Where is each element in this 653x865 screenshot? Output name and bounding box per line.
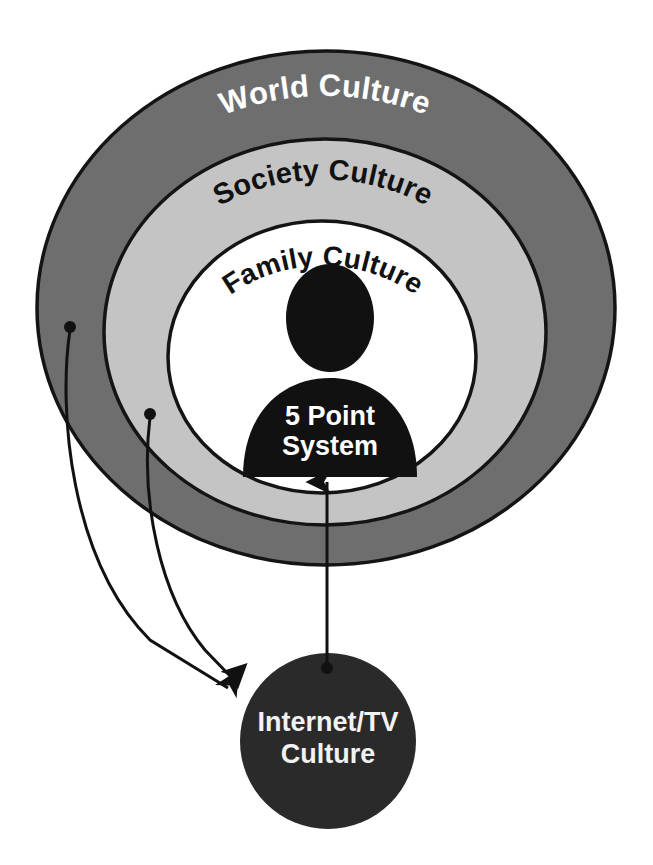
person-label-line2: System [282, 431, 378, 461]
culture-layers-diagram: World Culture Society Culture Family Cul… [0, 0, 653, 865]
diagram-canvas: World Culture Society Culture Family Cul… [0, 0, 653, 865]
internet-tv-culture-node[interactable]: Internet/TV Culture [240, 653, 416, 829]
person-head-shape [286, 264, 374, 372]
person-label-line1: 5 Point [285, 401, 375, 431]
internet-tv-label-line1: Internet/TV [257, 707, 398, 737]
internet-tv-label-line2: Culture [281, 739, 376, 769]
